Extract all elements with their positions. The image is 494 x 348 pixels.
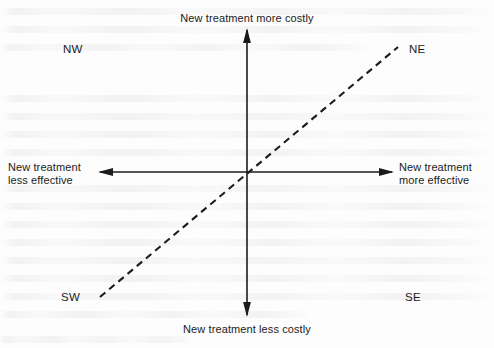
arrowhead-down-icon: [243, 302, 251, 317]
cost-effectiveness-plane: New treatment more costly New treatment …: [0, 0, 494, 348]
axis-label-more-costly: New treatment more costly: [0, 12, 494, 25]
axis-label-less-costly: New treatment less costly: [0, 323, 494, 336]
quadrant-label-ne: NE: [409, 43, 426, 56]
quadrant-label-nw: NW: [63, 43, 83, 56]
axis-label-less-effective: New treatment less effective: [8, 161, 96, 187]
quadrant-label-se: SE: [405, 291, 421, 304]
arrowhead-right-icon: [379, 168, 394, 176]
arrowhead-up-icon: [243, 28, 251, 43]
axis-label-more-effective: New treatment more effective: [399, 161, 491, 187]
quadrant-label-sw: SW: [61, 291, 80, 304]
arrowhead-left-icon: [98, 168, 113, 176]
horizontal-effectiveness-axis: [98, 168, 394, 176]
